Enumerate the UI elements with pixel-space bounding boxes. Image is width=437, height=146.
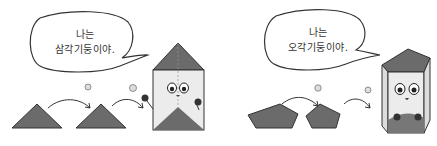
- speech-bubble-text: 나는 오각기둥이야.: [270, 25, 366, 55]
- triangle-prism-illustration: [0, 0, 218, 146]
- triangle-shape-2: [76, 104, 126, 128]
- triangle-shape-1: [12, 104, 62, 128]
- pentagon-prism-illustration: [218, 0, 437, 146]
- bubble-line-2: 오각기둥이야.: [270, 40, 366, 55]
- triangular-prism-character: [142, 43, 205, 130]
- arrow-icon: [48, 100, 90, 108]
- flower-icon: [315, 85, 321, 91]
- bubble-line-1: 나는: [270, 25, 366, 40]
- flower-icon: [85, 84, 91, 90]
- panel-pentagonal-prism: 나는 오각기둥이야.: [218, 0, 437, 146]
- pentagonal-prism-character: [382, 49, 430, 133]
- bubble-line-1: 나는: [40, 27, 130, 42]
- flower-icon: [365, 87, 371, 93]
- arrow-icon: [344, 99, 370, 108]
- arrow-icon: [282, 97, 318, 106]
- speech-bubble-text: 나는 삼각기둥이야.: [40, 27, 130, 57]
- bubble-line-2: 삼각기둥이야.: [40, 42, 130, 57]
- flower-icon: [130, 85, 137, 92]
- panel-triangular-prism: 나는 삼각기둥이야.: [0, 0, 218, 146]
- pentagon-shape-2: [306, 104, 340, 128]
- pentagon-shape-1: [248, 104, 298, 128]
